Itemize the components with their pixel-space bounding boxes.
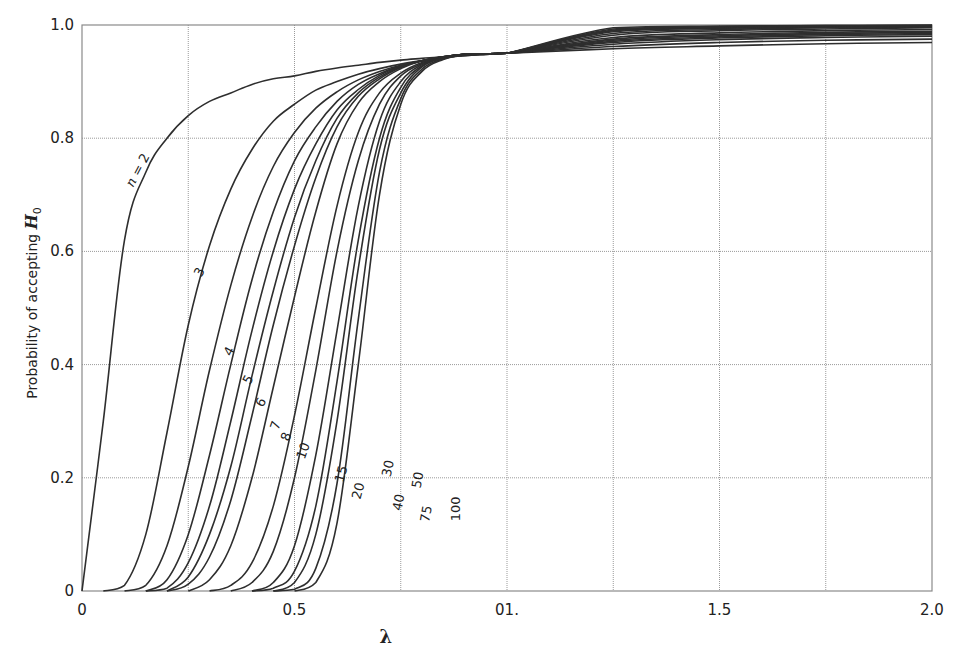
curve-label: 7 [267, 419, 284, 432]
curve-label: 8 [278, 430, 295, 443]
curve-label: 3 [191, 265, 208, 279]
curve-n-75 [273, 26, 932, 591]
x-tick-label: 0.5 [283, 601, 307, 619]
y-tick-label: 0.6 [50, 242, 74, 260]
curve-labels: n = 234567810152030405075100 [122, 151, 463, 524]
oc-curve-chart: n = 234567810152030405075100 00.501.1.52… [0, 0, 967, 656]
curve-label: 75 [417, 504, 435, 523]
curve-n-7 [167, 32, 932, 591]
curve-label: 50 [409, 470, 427, 489]
curve-label: 30 [379, 459, 397, 478]
curve-label: 15 [332, 464, 351, 484]
y-axis-label-text: Probability of accepting [24, 229, 40, 398]
curve-n-5 [146, 35, 932, 591]
x-axis-label: λ [379, 626, 392, 647]
curve-label: 5 [239, 372, 256, 386]
y-axis-label-subscript: 0 [31, 207, 44, 214]
x-axis-ticks: 00.501.1.52.0 [77, 601, 944, 619]
y-axis-label: Probability of accepting H0 [22, 207, 44, 399]
y-tick-label: 0.2 [50, 469, 74, 487]
curve-label: 100 [448, 497, 463, 522]
y-tick-label: 1.0 [50, 16, 74, 34]
x-tick-label: 1.5 [708, 601, 732, 619]
curve-n-4 [125, 36, 933, 591]
y-tick-label: 0 [64, 582, 74, 600]
y-tick-label: 0.4 [50, 356, 74, 374]
curve-n-10 [188, 30, 932, 592]
curve-label: 40 [389, 493, 407, 512]
y-tick-label: 0.8 [50, 129, 74, 147]
curve-label: 20 [349, 481, 368, 501]
curve-label: 10 [293, 440, 313, 461]
x-tick-label: 0 [77, 601, 87, 619]
curve-n-8 [167, 31, 932, 591]
curve-n-6 [146, 34, 932, 592]
y-axis-label-symbol: H [22, 213, 41, 230]
curve-n-30 [252, 27, 932, 591]
x-tick-label: 2.0 [920, 601, 944, 619]
x-tick-label: 01. [495, 601, 519, 619]
curve-label: n = 2 [122, 151, 152, 190]
curve-n-15 [210, 28, 933, 591]
curve-n-50 [273, 26, 932, 591]
y-axis-ticks: 00.20.40.60.81.0 [50, 16, 74, 600]
svg-text:Probability of accepting H0: Probability of accepting H0 [22, 207, 44, 399]
